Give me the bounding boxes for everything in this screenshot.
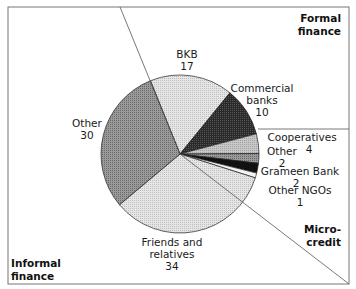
svg-text:Micro-: Micro- [304,223,341,235]
svg-text:Grameen Bank: Grameen Bank [261,165,340,177]
label-other-ngos: Other NGOs 1 [269,184,332,208]
svg-text:34: 34 [165,260,179,272]
label-bkb: BKB 17 [176,48,197,72]
svg-text:Informal: Informal [11,257,61,269]
svg-text:finance: finance [11,270,54,282]
svg-text:credit: credit [306,236,341,248]
svg-text:Commercial: Commercial [231,82,294,94]
pie-chart: BKB 17 Commercial banks 10 Cooperatives … [0,0,356,289]
label-other-informal: Other 30 [72,117,102,141]
zone-formal-finance: Formal finance [298,12,341,37]
svg-text:BKB: BKB [176,48,197,60]
zone-informal-finance: Informal finance [11,257,61,282]
svg-text:Other: Other [267,145,297,157]
svg-text:Friends and: Friends and [142,236,203,248]
svg-text:17: 17 [180,60,193,72]
svg-text:Other: Other [72,117,102,129]
zone-micro-credit: Micro- credit [304,223,341,248]
label-friends-relatives: Friends and relatives 34 [142,236,203,272]
svg-text:1: 1 [297,196,304,208]
svg-text:relatives: relatives [149,248,194,260]
svg-text:Formal: Formal [300,12,341,24]
svg-text:30: 30 [80,129,93,141]
svg-text:banks: banks [246,94,277,106]
svg-text:4: 4 [306,143,313,155]
svg-text:Cooperatives: Cooperatives [267,131,336,143]
pie-slices [101,75,259,233]
svg-text:10: 10 [255,106,268,118]
svg-text:Other NGOs: Other NGOs [269,184,332,196]
svg-text:finance: finance [298,25,341,37]
